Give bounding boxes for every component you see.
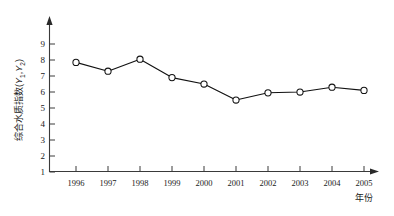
x-axis-arrowhead: [370, 168, 379, 174]
data-point-1996: [73, 59, 79, 65]
x-tick-label-2004: 2004: [324, 178, 342, 188]
y-axis-title: 综合水质指数(Y1,Y2): [13, 59, 26, 141]
y-axis-title-main: 综合水质指数: [13, 87, 24, 141]
x-tick-label-2002: 2002: [260, 178, 277, 188]
data-point-2005: [361, 87, 367, 93]
y-tick-label-8: 8: [41, 55, 46, 65]
x-tick-label-1998: 1998: [132, 178, 149, 188]
y-tick-label-4: 4: [41, 119, 46, 129]
data-point-2000: [201, 81, 207, 87]
data-point-2004: [329, 84, 335, 90]
y-tick-label-7: 7: [41, 71, 46, 81]
x-tick-label-2005: 2005: [356, 178, 373, 188]
chart-container: 1 2 3 4 5 6 7 8 9 1996 1997 1998: [0, 0, 394, 216]
x-tick-label-2003: 2003: [292, 178, 309, 188]
data-point-1999: [169, 75, 175, 81]
x-axis-ticks: [76, 166, 364, 172]
data-point-1997: [105, 68, 111, 74]
y-tick-label-1: 1: [41, 167, 46, 177]
x-tick-label-1997: 1997: [100, 178, 117, 188]
x-axis-tick-labels: 1996 1997 1998 1999 2000 2001 2002 2003 …: [68, 178, 373, 188]
y-axis-title-paren-close: ): [14, 59, 24, 62]
data-point-2002: [265, 90, 271, 96]
y-axis-arrowhead: [46, 16, 52, 25]
y-tick-label-2: 2: [41, 151, 46, 161]
x-axis-title: 年份: [355, 192, 373, 203]
data-point-2003: [297, 89, 303, 95]
data-point-1998: [137, 56, 143, 62]
y-tick-label-5: 5: [41, 103, 46, 113]
y-axis-tick-labels: 1 2 3 4 5 6 7 8 9: [41, 39, 46, 177]
line-chart-svg: 1 2 3 4 5 6 7 8 9 1996 1997 1998: [0, 0, 394, 216]
x-axis: [50, 168, 380, 174]
series-line-water-quality-index: [76, 59, 364, 100]
y-tick-label-3: 3: [41, 135, 46, 145]
y-tick-label-6: 6: [41, 87, 46, 97]
y-axis-ticks: [50, 44, 56, 172]
x-tick-label-2000: 2000: [196, 178, 213, 188]
y-axis-title-text: 综合水质指数(Y1,Y2): [13, 59, 26, 141]
y-axis: [46, 16, 52, 172]
x-tick-label-2001: 2001: [228, 178, 245, 188]
x-tick-label-1996: 1996: [68, 178, 85, 188]
series-markers: [73, 56, 367, 103]
x-tick-label-1999: 1999: [164, 178, 181, 188]
data-point-2001: [233, 97, 239, 103]
y-tick-label-9: 9: [41, 39, 46, 49]
